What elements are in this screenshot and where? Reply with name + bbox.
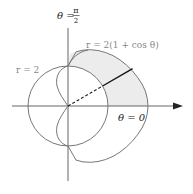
shaded-region xyxy=(68,50,148,106)
label-cardioid-equation: r = 2(1 + cos θ) xyxy=(86,40,159,50)
label-theta-pi-over-2: θ = π 2 xyxy=(57,6,80,25)
radial-dashed-segment xyxy=(68,86,103,106)
label-circle-equation: r = 2 xyxy=(16,65,39,75)
label-2-denominator: 2 xyxy=(74,17,78,25)
label-pi-numerator: π xyxy=(73,6,78,15)
label-theta-pi-over-2-lhs: θ = xyxy=(57,10,75,21)
polar-diagram: θ = π 2 r = 2(1 + cos θ) r = 2 θ = 0 xyxy=(0,0,193,194)
label-theta-zero: θ = 0 xyxy=(118,112,146,123)
x-axis-arrow-icon xyxy=(173,103,183,110)
